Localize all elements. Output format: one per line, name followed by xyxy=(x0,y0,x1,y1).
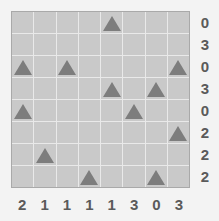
row-label: 0 xyxy=(191,100,219,122)
triangle-icon xyxy=(58,60,76,75)
grid-cell[interactable] xyxy=(12,12,33,33)
column-label: 3 xyxy=(168,190,190,218)
grid-cell[interactable] xyxy=(101,78,122,99)
grid-cell[interactable] xyxy=(101,56,122,77)
grid-cell[interactable] xyxy=(34,166,55,187)
grid-cell[interactable] xyxy=(168,100,189,121)
grid-cell[interactable] xyxy=(57,12,78,33)
grid-cell[interactable] xyxy=(57,34,78,55)
grid-cell[interactable] xyxy=(57,144,78,165)
grid-cell[interactable] xyxy=(101,166,122,187)
grid-cell[interactable] xyxy=(146,122,167,143)
grid-cell[interactable] xyxy=(34,122,55,143)
column-label-row: 21111303 xyxy=(11,190,190,218)
column-label: 2 xyxy=(11,190,33,218)
grid-cell[interactable] xyxy=(146,34,167,55)
grid-cell[interactable] xyxy=(168,166,189,187)
grid-cell[interactable] xyxy=(101,12,122,33)
grid-cell[interactable] xyxy=(123,166,144,187)
grid-cell[interactable] xyxy=(146,100,167,121)
grid-cell[interactable] xyxy=(12,100,33,121)
grid-container xyxy=(11,11,190,188)
grid-cell[interactable] xyxy=(101,144,122,165)
grid-cell[interactable] xyxy=(12,166,33,187)
grid-cell[interactable] xyxy=(146,78,167,99)
triangle-grid[interactable] xyxy=(12,12,189,187)
grid-cell[interactable] xyxy=(12,122,33,143)
grid-cell[interactable] xyxy=(34,12,55,33)
grid-cell[interactable] xyxy=(57,100,78,121)
grid-cell[interactable] xyxy=(101,100,122,121)
grid-cell[interactable] xyxy=(146,12,167,33)
grid-cell[interactable] xyxy=(123,122,144,143)
grid-cell[interactable] xyxy=(12,34,33,55)
triangle-icon xyxy=(147,82,165,97)
triangle-icon xyxy=(14,104,32,119)
grid-cell[interactable] xyxy=(79,100,100,121)
grid-cell[interactable] xyxy=(146,56,167,77)
grid-cell[interactable] xyxy=(146,144,167,165)
column-label: 1 xyxy=(56,190,78,218)
column-label: 0 xyxy=(145,190,167,218)
grid-cell[interactable] xyxy=(168,122,189,143)
grid-cell[interactable] xyxy=(168,56,189,77)
row-label: 3 xyxy=(191,33,219,55)
triangle-icon xyxy=(103,16,121,31)
row-label: 2 xyxy=(191,122,219,144)
grid-cell[interactable] xyxy=(123,12,144,33)
triangle-icon xyxy=(103,82,121,97)
row-label: 2 xyxy=(191,144,219,166)
grid-cell[interactable] xyxy=(79,12,100,33)
puzzle-board: 03030222 21111303 xyxy=(0,0,219,221)
grid-cell[interactable] xyxy=(123,144,144,165)
grid-cell[interactable] xyxy=(57,166,78,187)
row-label: 0 xyxy=(191,55,219,77)
grid-cell[interactable] xyxy=(79,56,100,77)
grid-cell[interactable] xyxy=(79,144,100,165)
grid-cell[interactable] xyxy=(168,144,189,165)
row-label: 3 xyxy=(191,77,219,99)
grid-cell[interactable] xyxy=(57,78,78,99)
grid-cell[interactable] xyxy=(34,100,55,121)
grid-cell[interactable] xyxy=(168,78,189,99)
row-label-column: 03030222 xyxy=(191,11,219,188)
triangle-icon xyxy=(125,104,143,119)
grid-cell[interactable] xyxy=(12,144,33,165)
row-label: 2 xyxy=(191,166,219,188)
grid-cell[interactable] xyxy=(12,56,33,77)
grid-cell[interactable] xyxy=(79,122,100,143)
grid-cell[interactable] xyxy=(146,166,167,187)
grid-cell[interactable] xyxy=(168,12,189,33)
grid-cell[interactable] xyxy=(34,144,55,165)
grid-cell[interactable] xyxy=(57,122,78,143)
triangle-icon xyxy=(80,170,98,185)
triangle-icon xyxy=(36,148,54,163)
grid-cell[interactable] xyxy=(123,100,144,121)
grid-cell[interactable] xyxy=(123,78,144,99)
grid-cell[interactable] xyxy=(79,34,100,55)
grid-cell[interactable] xyxy=(79,78,100,99)
grid-cell[interactable] xyxy=(123,56,144,77)
grid-cell[interactable] xyxy=(79,166,100,187)
triangle-icon xyxy=(14,60,32,75)
column-label: 1 xyxy=(101,190,123,218)
row-label: 0 xyxy=(191,11,219,33)
triangle-icon xyxy=(147,170,165,185)
grid-cell[interactable] xyxy=(34,56,55,77)
grid-cell[interactable] xyxy=(57,56,78,77)
column-label: 1 xyxy=(78,190,100,218)
grid-cell[interactable] xyxy=(34,34,55,55)
grid-cell[interactable] xyxy=(34,78,55,99)
grid-cell[interactable] xyxy=(101,34,122,55)
triangle-icon xyxy=(169,60,187,75)
grid-cell[interactable] xyxy=(168,34,189,55)
column-label: 1 xyxy=(33,190,55,218)
grid-cell[interactable] xyxy=(101,122,122,143)
column-label: 3 xyxy=(123,190,145,218)
grid-cell[interactable] xyxy=(12,78,33,99)
grid-cell[interactable] xyxy=(123,34,144,55)
triangle-icon xyxy=(169,126,187,141)
